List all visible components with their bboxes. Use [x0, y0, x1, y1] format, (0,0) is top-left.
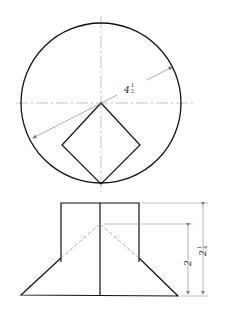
height-outer-label-frac-den: 4: [202, 246, 208, 249]
height-outer-label: 2 1 4: [196, 246, 208, 257]
radius-dimension-line-upper: [147, 67, 172, 80]
cone-hidden-right: [100, 224, 139, 258]
radius-label-frac-den: 2: [131, 88, 134, 94]
radius-label-main: 4: [123, 85, 130, 95]
height-inner-label: 2: [183, 260, 193, 267]
cone-hidden-left: [61, 224, 100, 258]
height-outer-label-main: 2: [198, 250, 208, 257]
radius-label: 4 1 2: [123, 82, 134, 95]
front-view: 2 2 1 4: [21, 203, 208, 296]
technical-drawing: 4 1 2 2 2 1 4: [0, 0, 225, 313]
top-view: 4 1 2: [16, 16, 196, 192]
